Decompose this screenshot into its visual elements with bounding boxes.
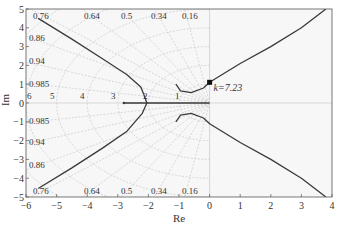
damping-label: 0.94 xyxy=(29,137,45,147)
x-axis-label: Re xyxy=(173,212,185,224)
damping-label: 0.985 xyxy=(29,116,50,126)
x-tick-label: 3 xyxy=(299,200,304,211)
pole-marker xyxy=(123,102,126,105)
damping-label: 0.16 xyxy=(182,186,198,196)
y-tick-label: −5 xyxy=(13,192,24,203)
x-tick-label: −3 xyxy=(112,200,123,211)
damping-label: 0.34 xyxy=(151,186,167,196)
x-tick-label: 1 xyxy=(238,200,243,211)
damping-label: 0.94 xyxy=(29,56,45,66)
wn-label: 6 xyxy=(27,91,32,101)
x-tick-label: 2 xyxy=(268,200,273,211)
damping-label: 0.76 xyxy=(33,11,49,21)
y-tick-label: −3 xyxy=(13,154,24,165)
y-axis-label: Im xyxy=(0,93,11,106)
root-locus-chart: 0.760.760.640.640.50.50.340.340.160.160.… xyxy=(0,0,337,228)
damping-label: 0.76 xyxy=(33,186,49,196)
gain-marker xyxy=(207,80,212,85)
gain-annotation: k=7.23 xyxy=(214,82,243,93)
wn-label: 2 xyxy=(143,91,148,101)
y-tick-label: 4 xyxy=(19,22,24,33)
x-tick-label: −2 xyxy=(143,200,154,211)
damping-label: 0.34 xyxy=(151,11,167,21)
damping-label: 0.5 xyxy=(121,11,133,21)
y-tick-label: −2 xyxy=(13,135,24,146)
wn-label: 1 xyxy=(175,91,180,101)
y-tick-label: 3 xyxy=(19,41,24,52)
x-tick-label: −5 xyxy=(51,200,62,211)
wn-label: 5 xyxy=(50,91,55,101)
x-tick-label: −4 xyxy=(82,200,93,211)
x-tick-label: −1 xyxy=(174,200,185,211)
y-tick-label: −4 xyxy=(13,173,24,184)
y-tick-label: 5 xyxy=(19,4,24,15)
damping-label: 0.5 xyxy=(121,186,133,196)
x-tick-label: 0 xyxy=(207,200,212,211)
x-tick-label: 4 xyxy=(330,200,335,211)
y-tick-label: −1 xyxy=(13,116,24,127)
y-tick-label: 0 xyxy=(19,98,24,109)
damping-label: 0.16 xyxy=(182,11,198,21)
damping-label: 0.985 xyxy=(29,79,50,89)
damping-label: 0.86 xyxy=(29,33,45,43)
wn-label: 4 xyxy=(80,91,85,101)
y-tick-label: 1 xyxy=(19,79,24,90)
damping-label: 0.86 xyxy=(29,160,45,170)
damping-label: 0.64 xyxy=(84,186,100,196)
y-tick-label: 2 xyxy=(19,60,24,71)
damping-label: 0.64 xyxy=(84,11,100,21)
wn-label: 3 xyxy=(111,91,116,101)
